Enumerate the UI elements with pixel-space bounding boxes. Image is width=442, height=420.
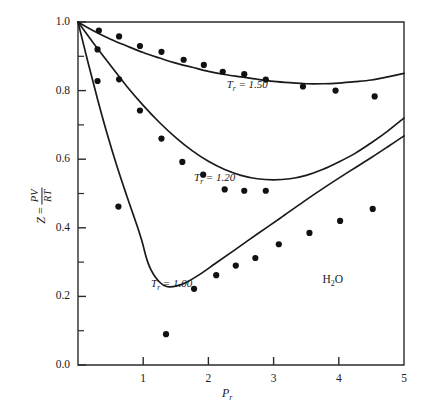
data-point — [241, 71, 247, 77]
substance-h: H — [323, 273, 331, 285]
y-tick-label: 0.2 — [36, 290, 70, 302]
y-tick-label: 0.0 — [36, 359, 70, 371]
data-point — [241, 188, 247, 194]
data-point — [94, 46, 100, 52]
x-tick-label: 2 — [198, 373, 218, 385]
data-point — [372, 93, 378, 99]
data-point — [115, 203, 121, 209]
data-point — [332, 88, 338, 94]
data-point — [201, 62, 207, 68]
y-tick-label: 0.8 — [36, 85, 70, 97]
data-point — [337, 218, 343, 224]
data-point — [94, 78, 100, 84]
substance-label: H2O — [323, 274, 344, 288]
data-point — [163, 331, 169, 337]
y-tick-label: 1.0 — [36, 16, 70, 28]
y-axis-z: Z — [34, 217, 48, 224]
data-point — [158, 49, 164, 55]
curve-label-tr-150: Tr = 1.50 — [227, 79, 268, 93]
x-axis-subscript: r — [229, 393, 232, 402]
x-tick-label: 5 — [394, 373, 414, 385]
isotherm-curve — [78, 22, 404, 84]
data-point — [263, 188, 269, 194]
substance-o: O — [335, 273, 343, 285]
x-tick-label: 4 — [329, 373, 349, 385]
chart-data-points — [94, 27, 377, 337]
data-point — [96, 27, 102, 33]
data-point — [116, 33, 122, 39]
chart-axes — [78, 22, 404, 365]
data-point — [220, 69, 226, 75]
x-tick-label: 3 — [264, 373, 284, 385]
data-point — [222, 186, 228, 192]
y-axis-fraction: PVRT — [29, 187, 54, 204]
data-point — [137, 43, 143, 49]
data-point — [116, 76, 122, 82]
data-point — [252, 255, 258, 261]
data-point — [300, 83, 306, 89]
y-axis-eq: = — [34, 204, 48, 217]
curve-label-tr-100: Tr = 1.00 — [151, 278, 192, 292]
data-point — [213, 272, 219, 278]
data-point — [306, 230, 312, 236]
x-tick-label: 1 — [133, 373, 153, 385]
curve-label-tr-120: Tr = 1.20 — [194, 172, 235, 186]
data-point — [137, 107, 143, 113]
chart-curves — [78, 22, 404, 287]
data-point — [233, 262, 239, 268]
data-point — [370, 206, 376, 212]
y-axis-title: Z = PVRT — [12, 175, 72, 235]
x-axis-title: Pr — [222, 386, 232, 402]
y-axis-numerator: PV — [29, 187, 42, 204]
isotherm-curve — [78, 22, 404, 287]
data-point — [179, 159, 185, 165]
y-axis-denominator: RT — [43, 187, 55, 204]
data-point — [276, 241, 282, 247]
data-point — [158, 136, 164, 142]
y-tick-label: 0.6 — [36, 153, 70, 165]
data-point — [181, 57, 187, 63]
